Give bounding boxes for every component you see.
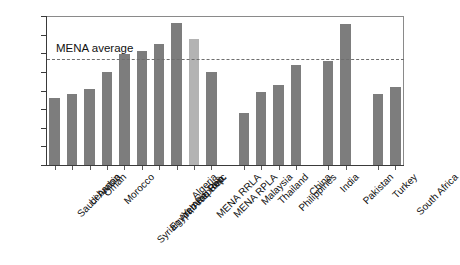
- x-tick-mark: [159, 166, 160, 170]
- x-axis-label-text: Algeria: [190, 172, 219, 201]
- x-axis-label-text: Egypt, Arab Rep.: [168, 172, 229, 233]
- x-tick-mark: [279, 166, 280, 170]
- x-axis-label: Turkey: [391, 172, 419, 200]
- x-tick-mark: [72, 166, 73, 170]
- bar: [67, 94, 77, 165]
- x-axis-label: Saudi Arabia: [75, 172, 122, 219]
- x-axis-label: Pakistan: [361, 172, 395, 206]
- bar: [119, 54, 129, 165]
- x-axis-label: Egypt, Arab Rep.: [168, 172, 229, 233]
- x-tick-mark: [107, 166, 108, 170]
- x-axis-label-text: South Africa: [415, 172, 460, 217]
- x-axis-label-text: Thailand: [276, 172, 310, 206]
- x-axis-label-text: Turkey: [391, 172, 419, 200]
- x-tick-mark: [194, 166, 195, 170]
- x-tick-mark: [142, 166, 143, 170]
- x-axis-label: Oman: [102, 172, 128, 198]
- x-axis-label: Philippines: [297, 172, 338, 213]
- y-tick-mark: [41, 146, 46, 147]
- x-axis-label-text: Lebanon: [88, 172, 123, 207]
- y-tick-mark: [41, 165, 46, 166]
- x-tick-mark: [177, 166, 178, 170]
- y-tick-mark: [41, 91, 46, 92]
- y-tick-mark: [41, 109, 46, 110]
- x-axis-label: India: [339, 172, 361, 194]
- x-axis-label: Malaysia: [259, 172, 294, 207]
- mena-average-line: [47, 59, 404, 60]
- bar: [323, 61, 333, 165]
- y-tick-mark: [41, 16, 46, 17]
- bar: [373, 94, 383, 165]
- x-tick-mark: [244, 166, 245, 170]
- bar: [239, 113, 249, 165]
- x-tick-mark: [296, 166, 297, 170]
- x-axis-line: [46, 165, 404, 166]
- x-tick-mark: [124, 166, 125, 170]
- x-axis-label-text: MENA RRLA: [215, 172, 263, 220]
- x-tick-mark: [328, 166, 329, 170]
- x-axis-label: Yemen, Rep.: [180, 172, 228, 220]
- y-tick-mark: [41, 53, 46, 54]
- bar: [171, 23, 181, 165]
- y-tick-mark: [41, 35, 46, 36]
- x-axis-label: Syrian Arab Republic: [156, 172, 229, 245]
- y-tick-mark: [41, 128, 46, 129]
- x-axis-label-text: Syrian Arab Republic: [156, 172, 229, 245]
- x-axis-label: MENA RRLA: [215, 172, 263, 220]
- x-axis-label: MENA RPLA: [232, 172, 280, 220]
- bar: [84, 89, 94, 165]
- x-axis-label-text: Morocco: [122, 172, 156, 206]
- bar: [390, 87, 400, 165]
- x-axis-label-text: Oman: [102, 172, 128, 198]
- x-axis-label: South Africa: [415, 172, 460, 217]
- y-tick-mark: [41, 72, 46, 73]
- x-axis-label-text: India: [339, 172, 361, 194]
- bar: [291, 65, 301, 165]
- mena-average-label: MENA average: [56, 43, 133, 55]
- x-axis-label-text: Saudi Arabia: [75, 172, 122, 219]
- x-axis-label-text: Pakistan: [361, 172, 395, 206]
- bars-layer: [46, 16, 404, 165]
- bar: [137, 51, 147, 165]
- x-axis-label: China: [308, 172, 334, 198]
- bar: [340, 24, 350, 165]
- x-tick-mark: [395, 166, 396, 170]
- x-tick-mark: [378, 166, 379, 170]
- bar: [49, 98, 59, 165]
- x-axis-label-text: Malaysia: [259, 172, 294, 207]
- x-axis-label: Lebanon: [88, 172, 123, 207]
- bar: [273, 85, 283, 165]
- x-tick-mark: [261, 166, 262, 170]
- x-axis-label-text: MENA RPLA: [232, 172, 280, 220]
- x-axis-label-text: Yemen, Rep.: [180, 172, 228, 220]
- bar: [206, 72, 216, 165]
- x-tick-mark: [55, 166, 56, 170]
- x-axis-label-text: China: [308, 172, 334, 198]
- x-axis-label: Morocco: [122, 172, 156, 206]
- x-axis-label: Algeria: [190, 172, 219, 201]
- bar: [102, 72, 112, 165]
- bar: [256, 92, 266, 165]
- x-tick-mark: [346, 166, 347, 170]
- x-axis-label-text: Philippines: [297, 172, 338, 213]
- bar: [189, 39, 199, 165]
- bar: [154, 44, 164, 165]
- x-axis-label: Thailand: [276, 172, 310, 206]
- x-tick-mark: [211, 166, 212, 170]
- x-tick-mark: [90, 166, 91, 170]
- y-axis-line: [46, 16, 47, 166]
